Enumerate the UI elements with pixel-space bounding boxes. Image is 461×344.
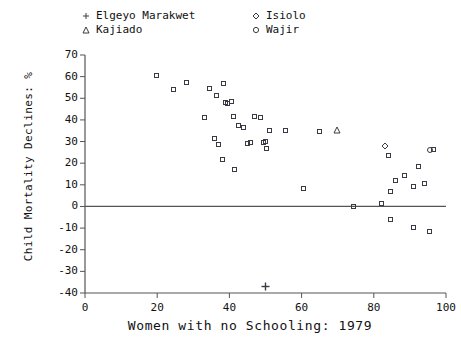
- y-tick-label: 10: [30, 179, 78, 190]
- y-tick-label: 20: [30, 157, 78, 168]
- y-tick-label: 70: [30, 49, 78, 60]
- y-tick-label: 60: [30, 71, 78, 82]
- x-tick-label: 40: [209, 302, 249, 313]
- scatter-chart-figure: Elgeyo Marakwet Kajiado Isiolo: [0, 0, 461, 344]
- x-tick-label: 60: [282, 302, 322, 313]
- y-tick-label: -20: [30, 244, 78, 255]
- plot-area: 706050403020100-10-20-30-40020406080100: [0, 0, 461, 344]
- y-tick-label: -30: [30, 265, 78, 276]
- y-tick-label: 0: [30, 200, 78, 211]
- y-tick-label: -40: [30, 287, 78, 298]
- y-tick-label: 50: [30, 92, 78, 103]
- x-tick-label: 80: [354, 302, 394, 313]
- y-tick-label: -10: [30, 222, 78, 233]
- x-tick-label: 100: [426, 302, 461, 313]
- x-tick-label: 20: [137, 302, 177, 313]
- y-tick-label: 30: [30, 136, 78, 147]
- x-tick-label: 0: [65, 302, 105, 313]
- y-tick-label: 40: [30, 114, 78, 125]
